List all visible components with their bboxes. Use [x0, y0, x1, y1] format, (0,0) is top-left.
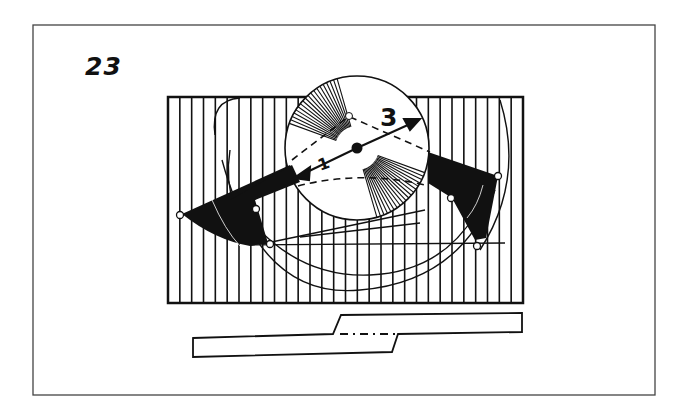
- pivot-top: [346, 113, 353, 120]
- diagram-canvas: 3 1 23: [0, 0, 687, 415]
- pivot-left: [177, 212, 184, 219]
- pivot-left-inner: [253, 206, 260, 213]
- center-pivot: [352, 143, 363, 154]
- stepped-bar: [193, 313, 522, 357]
- label-3: 3: [380, 103, 397, 132]
- pivot-left-bottom: [267, 241, 274, 248]
- pivot-right-inner: [448, 195, 455, 202]
- figure-number: 23: [85, 52, 122, 81]
- pivot-right: [495, 173, 502, 180]
- pivot-right-bottom: [474, 243, 481, 250]
